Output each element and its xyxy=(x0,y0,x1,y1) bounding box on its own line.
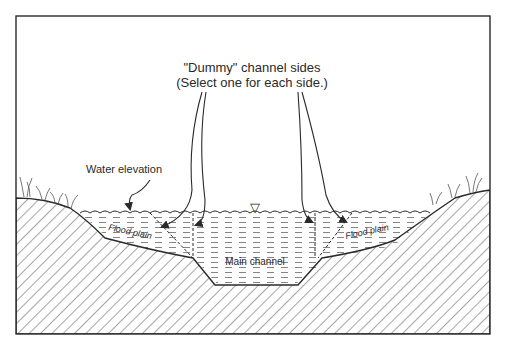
title-line-2: (Select one for each side.) xyxy=(176,75,328,90)
arrow-to-left-sloped-side xyxy=(162,92,202,227)
water-elevation-label: Water elevation xyxy=(86,163,162,175)
title-line-1: "Dummy" channel sides xyxy=(183,60,321,75)
channel-cross-section-diagram: ▽ "Dummy" channel sides (Select one for … xyxy=(0,0,506,347)
water-surface-symbol: ▽ xyxy=(250,200,260,215)
arrow-to-water-surface xyxy=(129,180,150,209)
arrow-to-right-vertical-side xyxy=(298,92,312,222)
main-channel-label: Main channel xyxy=(225,256,284,267)
arrow-to-right-sloped-side xyxy=(302,92,346,222)
